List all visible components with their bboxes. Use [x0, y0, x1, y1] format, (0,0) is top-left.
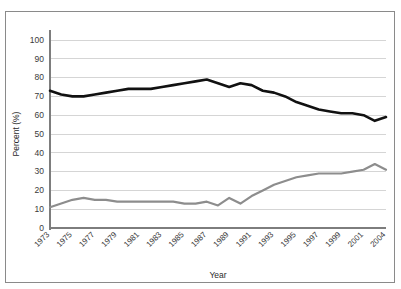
- x-axis-tick-label: 1989: [212, 230, 231, 249]
- y-axis-tick-label: 30: [35, 166, 45, 176]
- x-axis-tick-label: 1973: [32, 230, 51, 249]
- x-axis-tick-label: 1985: [167, 230, 186, 249]
- y-axis-tick-label: 60: [35, 110, 45, 120]
- clipped-caption: [6, 0, 306, 7]
- x-axis-tick-label: 1999: [324, 230, 343, 249]
- x-axis-tick-label: 1981: [122, 230, 141, 249]
- x-axis-tick-label: 1979: [100, 230, 119, 249]
- x-axis-tick-label: 1983: [144, 230, 163, 249]
- chart-frame: 0102030405060708090100197319751977197919…: [5, 11, 395, 283]
- x-axis-tick-label: 2004: [368, 230, 387, 249]
- y-axis-title: Percent (%): [11, 111, 21, 156]
- x-axis-tick-label: 1987: [189, 230, 208, 249]
- y-axis-tick-label: 70: [35, 91, 45, 101]
- line-chart: 0102030405060708090100197319751977197919…: [6, 12, 396, 284]
- x-axis-tick-label: 1995: [279, 230, 298, 249]
- y-axis-tick-label: 100: [30, 35, 44, 45]
- x-axis-tick-label: 1977: [77, 230, 96, 249]
- y-axis-tick-label: 10: [35, 204, 45, 214]
- x-axis-tick-label: 1975: [55, 230, 74, 249]
- x-axis-tick-label: 1991: [234, 230, 253, 249]
- x-axis-tick-label: 1997: [301, 230, 320, 249]
- x-axis-tick-label: 2001: [346, 230, 365, 249]
- y-axis-tick-label: 80: [35, 72, 45, 82]
- data-series-lower-series: [50, 164, 386, 207]
- chart-plot-area: 0102030405060708090100197319751977197919…: [6, 12, 396, 284]
- y-axis-tick-label: 50: [35, 129, 45, 139]
- y-axis-tick-label: 40: [35, 148, 45, 158]
- x-axis-tick-label: 1993: [256, 230, 275, 249]
- x-axis-title: Year: [209, 270, 226, 280]
- data-series-upper-series: [50, 79, 386, 120]
- y-axis-tick-label: 20: [35, 185, 45, 195]
- y-axis-tick-label: 90: [35, 54, 45, 64]
